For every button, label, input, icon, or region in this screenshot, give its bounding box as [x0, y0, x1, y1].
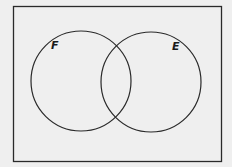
set-f-label: F: [51, 39, 59, 52]
set-e-label: E: [172, 40, 180, 53]
universal-set-rectangle: [14, 7, 222, 162]
venn-diagram: F E: [0, 0, 232, 167]
